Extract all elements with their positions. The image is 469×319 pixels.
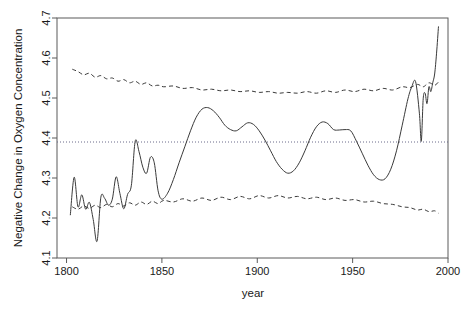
y-tick-label: 4.3: [40, 170, 52, 185]
upper-confidence-band: [72, 69, 438, 93]
reconstruction: [70, 27, 438, 242]
x-tick-label: 1950: [340, 265, 364, 277]
x-tick-label: 1900: [245, 265, 269, 277]
x-tick-label: 1850: [150, 265, 174, 277]
y-axis-title: Negative Change in Oxygen Concentration: [12, 29, 24, 248]
y-tick-label: 4.5: [40, 90, 52, 105]
chart-canvas: 18001850190019502000 4.14.24.34.44.54.64…: [0, 0, 469, 319]
x-axis-ticks: [67, 258, 448, 263]
y-axis-ticks: [52, 18, 57, 258]
series-lines: [70, 27, 438, 242]
y-tick-label: 4.4: [40, 130, 52, 145]
x-tick-label: 2000: [436, 265, 460, 277]
x-tick-label: 1800: [54, 265, 78, 277]
y-axis-tick-labels: 4.14.24.34.44.54.64.7: [40, 10, 52, 265]
x-axis-title: year: [242, 287, 265, 299]
y-tick-label: 4.6: [40, 50, 52, 65]
x-axis-tick-labels: 18001850190019502000: [54, 265, 460, 277]
y-tick-label: 4.2: [40, 210, 52, 225]
plot-frame: [57, 18, 448, 258]
chart-figure: 18001850190019502000 4.14.24.34.44.54.64…: [0, 0, 469, 319]
y-tick-label: 4.1: [40, 250, 52, 265]
lower-confidence-band: [72, 196, 438, 214]
y-tick-label: 4.7: [40, 10, 52, 25]
